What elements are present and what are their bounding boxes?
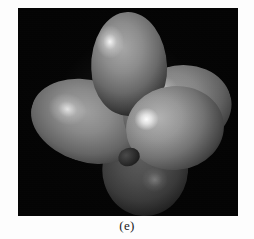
balloon-cluster <box>18 8 238 216</box>
photo-panel <box>18 8 238 216</box>
figure-caption: (e) <box>0 218 254 234</box>
figure-container: (e) <box>0 0 254 239</box>
